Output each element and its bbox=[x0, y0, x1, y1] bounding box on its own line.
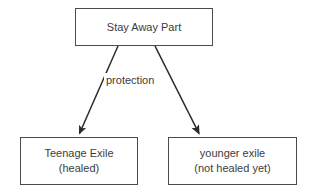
edge-root-to-right bbox=[155, 46, 199, 134]
node-teenage-exile-line1: Teenage Exile bbox=[44, 146, 113, 161]
edge-root-to-left bbox=[80, 46, 119, 134]
node-stay-away-part[interactable]: Stay Away Part bbox=[75, 8, 213, 46]
node-younger-exile[interactable]: younger exile (not healed yet) bbox=[168, 137, 297, 185]
edge-label-protection: protection bbox=[104, 73, 156, 88]
diagram-canvas: protection Stay Away Part Teenage Exile … bbox=[0, 0, 313, 191]
node-younger-exile-line2: (not healed yet) bbox=[194, 161, 270, 176]
node-younger-exile-line1: younger exile bbox=[200, 146, 265, 161]
node-teenage-exile[interactable]: Teenage Exile (healed) bbox=[20, 137, 138, 185]
node-stay-away-part-line1: Stay Away Part bbox=[107, 20, 181, 35]
node-teenage-exile-line2: (healed) bbox=[59, 161, 99, 176]
